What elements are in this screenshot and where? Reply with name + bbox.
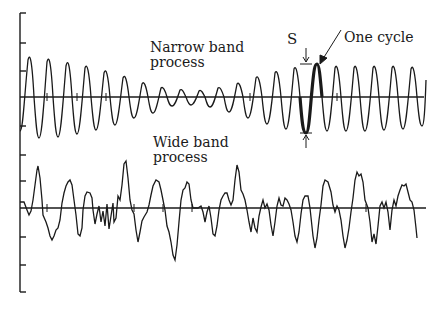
narrow-band-label-line2: process bbox=[150, 55, 244, 70]
axis-ticks bbox=[20, 13, 26, 292]
amplitude-label: S bbox=[287, 32, 297, 47]
narrow-band-label-line1: Narrow band bbox=[150, 40, 244, 55]
one-cycle-label: One cycle bbox=[344, 30, 414, 45]
wide-band-label-line2: process bbox=[153, 150, 229, 165]
cycle-pointer-arrow bbox=[320, 30, 341, 64]
highlighted-cycle bbox=[300, 64, 322, 133]
wide-band-label: Wide band process bbox=[153, 135, 229, 165]
narrow-band-label: Narrow band process bbox=[150, 40, 244, 70]
random-process-figure: Narrow band process Wide band process S … bbox=[0, 0, 440, 310]
wide-band-waveform bbox=[20, 161, 417, 260]
wide-band-label-line1: Wide band bbox=[153, 135, 229, 150]
narrow-band-waveform-tail bbox=[322, 66, 426, 131]
